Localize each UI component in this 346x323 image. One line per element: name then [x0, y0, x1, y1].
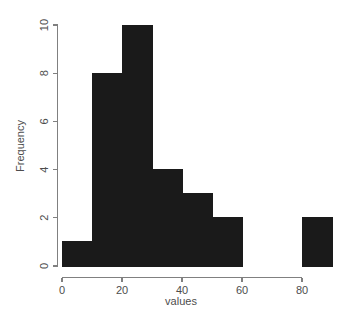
- y-tick-label: 6: [38, 118, 50, 124]
- y-axis-title: Frequency: [14, 120, 26, 172]
- x-tick-label: 80: [296, 284, 308, 296]
- y-tick-label: 8: [38, 70, 50, 76]
- histogram-bar: [92, 73, 122, 266]
- y-tick-label: 2: [38, 215, 50, 221]
- histogram-bar: [302, 218, 332, 266]
- y-tick-label: 0: [38, 263, 50, 269]
- x-axis-title: values: [165, 295, 197, 307]
- y-tick-label: 10: [38, 19, 50, 31]
- histogram-bar: [152, 170, 182, 266]
- histogram-figure: 0246810 020406080 values Frequency: [0, 0, 346, 323]
- histogram-bar: [122, 25, 152, 266]
- histogram-bar: [62, 242, 92, 266]
- histogram-bar: [212, 218, 242, 266]
- figure-background: [0, 0, 346, 323]
- histogram-bar: [182, 194, 212, 266]
- y-tick-label: 4: [38, 167, 50, 173]
- x-tick-label: 20: [116, 284, 128, 296]
- x-tick-label: 0: [59, 284, 65, 296]
- histogram-canvas: 0246810 020406080 values Frequency: [0, 0, 346, 323]
- x-tick-label: 60: [236, 284, 248, 296]
